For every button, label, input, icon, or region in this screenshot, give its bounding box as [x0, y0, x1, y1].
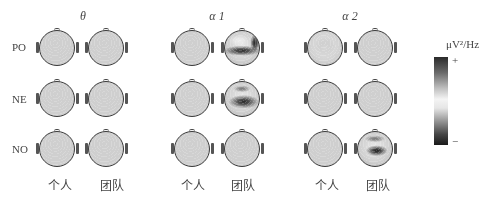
nose-marker: [372, 79, 378, 83]
contour-lines: [89, 132, 123, 166]
right-ear-marker: [344, 93, 347, 104]
contour-lines: [89, 31, 123, 65]
colorbar-unit-label: μV²/Hz: [446, 38, 479, 50]
right-ear-marker: [125, 42, 128, 53]
right-ear-marker: [125, 143, 128, 154]
topomap-head: [224, 30, 260, 67]
topomap-head: [224, 81, 260, 118]
nose-marker: [103, 129, 109, 133]
scalp-map: [39, 30, 75, 66]
topomap-head: [174, 81, 210, 118]
topomap-head: [39, 131, 75, 168]
scalp-map: [307, 30, 343, 66]
scalp-map: [88, 131, 124, 167]
nose-marker: [189, 129, 195, 133]
topomap-head: [307, 81, 343, 118]
contour-lines: [308, 31, 342, 65]
contour-lines: [358, 31, 392, 65]
scalp-map: [224, 30, 260, 66]
contour-lines: [225, 132, 259, 166]
right-ear-marker: [344, 143, 347, 154]
condition-label-team-alpha2: 团队: [358, 176, 398, 193]
condition-label-individual-theta: 个人: [40, 176, 80, 193]
right-ear-marker: [394, 42, 397, 53]
topomap-head: [224, 131, 260, 168]
condition-label-individual-alpha2: 个人: [307, 176, 347, 193]
right-ear-marker: [211, 143, 214, 154]
nose-marker: [54, 28, 60, 32]
colorbar: [434, 57, 448, 145]
topomap-head: [88, 131, 124, 168]
nose-marker: [189, 79, 195, 83]
nose-marker: [322, 28, 328, 32]
condition-label-individual-alpha1: 个人: [173, 176, 213, 193]
column-title-alpha2: α 2: [330, 9, 370, 24]
scalp-map: [88, 30, 124, 66]
contour-lines: [40, 31, 74, 65]
scalp-map: [307, 81, 343, 117]
nose-marker: [189, 28, 195, 32]
contour-lines: [358, 132, 392, 166]
contour-lines: [225, 31, 259, 65]
right-ear-marker: [76, 143, 79, 154]
scalp-map: [224, 81, 260, 117]
condition-label-team-theta: 团队: [92, 176, 132, 193]
scalp-map: [357, 131, 393, 167]
right-ear-marker: [261, 143, 264, 154]
contour-lines: [175, 82, 209, 116]
nose-marker: [239, 28, 245, 32]
right-ear-marker: [76, 93, 79, 104]
nose-marker: [322, 129, 328, 133]
right-ear-marker: [76, 42, 79, 53]
scalp-map: [174, 81, 210, 117]
scalp-map: [39, 81, 75, 117]
topomap-head: [307, 131, 343, 168]
contour-lines: [308, 82, 342, 116]
contour-lines: [89, 82, 123, 116]
colorbar-min-label: −: [452, 135, 458, 147]
topomap-head: [88, 81, 124, 118]
nose-marker: [103, 28, 109, 32]
nose-marker: [372, 129, 378, 133]
contour-lines: [225, 82, 259, 116]
scalp-map: [357, 30, 393, 66]
contour-lines: [175, 31, 209, 65]
nose-marker: [322, 79, 328, 83]
column-title-theta: θ: [63, 9, 103, 24]
right-ear-marker: [211, 93, 214, 104]
topomap-head: [174, 131, 210, 168]
contour-lines: [175, 132, 209, 166]
contour-lines: [308, 132, 342, 166]
scalp-map: [307, 131, 343, 167]
topomap-head: [307, 30, 343, 67]
right-ear-marker: [394, 143, 397, 154]
scalp-map: [224, 131, 260, 167]
topomap-head: [39, 30, 75, 67]
topomap-head: [357, 30, 393, 67]
condition-label-team-alpha1: 团队: [223, 176, 263, 193]
right-ear-marker: [211, 42, 214, 53]
nose-marker: [239, 129, 245, 133]
topomap-head: [174, 30, 210, 67]
scalp-map: [174, 30, 210, 66]
right-ear-marker: [261, 42, 264, 53]
row-label-po: PO: [12, 41, 38, 53]
right-ear-marker: [261, 93, 264, 104]
contour-lines: [40, 82, 74, 116]
colorbar-max-label: +: [452, 54, 458, 66]
scalp-map: [88, 81, 124, 117]
topomap-head: [39, 81, 75, 118]
topomap-head: [88, 30, 124, 67]
right-ear-marker: [394, 93, 397, 104]
scalp-map: [174, 131, 210, 167]
scalp-map: [357, 81, 393, 117]
right-ear-marker: [125, 93, 128, 104]
topomap-head: [357, 131, 393, 168]
nose-marker: [372, 28, 378, 32]
nose-marker: [239, 79, 245, 83]
right-ear-marker: [344, 42, 347, 53]
contour-lines: [358, 82, 392, 116]
nose-marker: [54, 129, 60, 133]
contour-lines: [40, 132, 74, 166]
row-label-no: NO: [12, 143, 38, 155]
